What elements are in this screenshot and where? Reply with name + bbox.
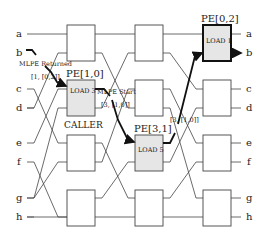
pe-0-2-load-label: LOAD 1 xyxy=(206,37,232,45)
left-label-d: d xyxy=(16,102,23,113)
switch-box-c1-r3 xyxy=(67,135,95,171)
switch-box-c3-r3 xyxy=(203,135,231,171)
left-label-a: a xyxy=(16,28,22,39)
right-label-f: f xyxy=(247,156,252,167)
pe-1-0-load-label: LOAD 3 xyxy=(70,87,96,95)
pe-1-0-box xyxy=(67,80,95,116)
pe-1-0-label: PE[1,0] xyxy=(66,68,104,79)
left-label-c: c xyxy=(16,83,22,94)
right-label-h: h xyxy=(246,211,253,222)
butterfly-network-diagram: a b c d e f g h a b c d e f g h xyxy=(0,0,262,238)
left-label-b: b xyxy=(16,47,22,58)
right-label-d: d xyxy=(246,102,253,113)
mlpe-returned-annotation: MLPE Returned xyxy=(19,60,72,68)
returned-tuple-annotation: [1, [0,2]] xyxy=(31,73,60,81)
right-label-a: a xyxy=(246,28,252,39)
switch-box-c3-r2 xyxy=(203,80,231,116)
left-label-e: e xyxy=(16,137,22,148)
right-label-e: e xyxy=(246,137,252,148)
caller-annotation: CALLER xyxy=(64,120,103,130)
pe-0-2-label: PE[0,2] xyxy=(201,13,239,24)
start-tuple-annotation: [3, [1,0]] xyxy=(101,101,130,109)
right-row-labels: a b c d e f g h xyxy=(246,28,253,222)
mlpe-start-annotation: MLPE Start xyxy=(97,88,136,96)
switch-box-c1-r4 xyxy=(67,190,95,226)
second-tuple-annotation: [3, [1,0]] xyxy=(170,116,199,124)
switch-box-c3-r4 xyxy=(203,190,231,226)
left-label-f: f xyxy=(17,156,22,167)
switch-box-c2-r1 xyxy=(135,25,163,61)
switch-box-c2-r4 xyxy=(135,190,163,226)
left-label-h: h xyxy=(16,211,23,222)
pe-3-1-load-label: LOAD 5 xyxy=(138,146,164,154)
switch-box-c2-r2 xyxy=(135,80,163,116)
pe-3-1-label: PE[3,1] xyxy=(134,123,172,134)
left-row-labels: a b c d e f g h xyxy=(16,28,23,222)
right-label-g: g xyxy=(246,192,253,203)
right-label-c: c xyxy=(246,83,252,94)
left-label-g: g xyxy=(16,192,23,203)
right-label-b: b xyxy=(246,47,252,58)
switch-box-c1-r1 xyxy=(67,25,95,61)
